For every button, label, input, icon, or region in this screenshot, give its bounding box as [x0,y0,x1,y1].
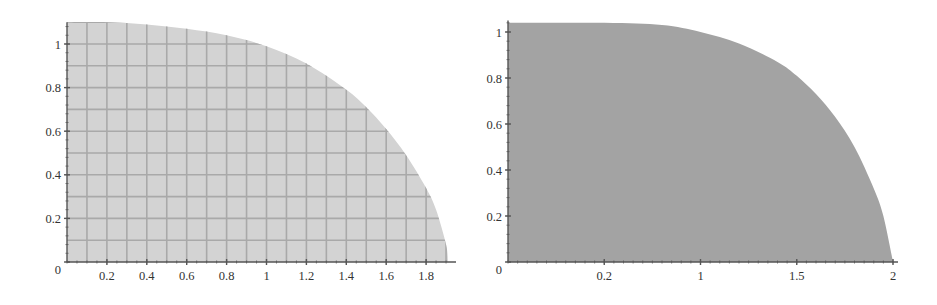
x-tick-label: 0.4 [139,269,155,283]
x-tick-label: 1.6 [378,269,394,283]
x-tick-label: 1.4 [338,269,354,283]
x-tick-label: 1.5 [789,269,805,283]
right-plot-area: 00.20.40.60.810.211.52 [468,0,937,305]
y-tick-label: 0.6 [486,118,502,132]
x-tick-label: 0.6 [179,269,195,283]
y-tick-label: 0.8 [486,72,502,86]
left-plot-area: 00.20.40.60.810.20.40.60.811.21.41.61.8 [0,0,468,305]
x-tick-label: 1.2 [299,269,315,283]
x-tick-label: 0.2 [99,269,115,283]
left-chart: 00.20.40.60.810.20.40.60.811.21.41.61.8 [0,0,468,305]
y-tick-label: 0.2 [486,210,502,224]
x-tick-label: 0.2 [596,269,612,283]
y-tick-label: 0.8 [45,81,61,95]
x-tick-label: 1 [697,269,703,283]
y-tick-label: 0 [55,263,61,277]
filled-region [508,23,893,262]
x-tick-label: 2 [890,269,896,283]
y-tick-label: 0.4 [45,168,61,182]
y-tick-label: 0 [496,263,502,277]
y-tick-label: 1 [55,38,61,52]
x-tick-label: 0.8 [219,269,235,283]
x-tick-label: 1 [263,269,269,283]
x-tick-label: 1.8 [418,269,434,283]
y-tick-label: 0.6 [45,125,61,139]
filled-region [67,22,448,262]
y-tick-label: 0.2 [45,212,61,226]
y-tick-label: 0.4 [486,164,502,178]
y-tick-label: 1 [496,26,502,40]
right-chart: 00.20.40.60.810.211.52 [468,0,937,305]
